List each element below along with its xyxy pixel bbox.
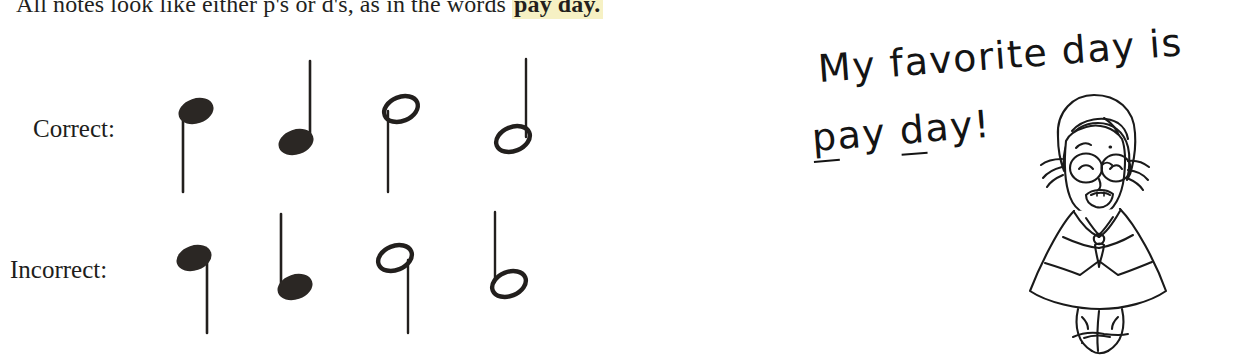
body-text-line: All notes look like either p's or d's, a… — [16, 0, 603, 19]
body-text-plain: All notes look like either p's or d's, a… — [16, 0, 512, 17]
notes-row-incorrect — [170, 200, 590, 350]
filled-note-stem-down-left-icon — [170, 45, 260, 195]
row-label-incorrect: Incorrect: — [10, 257, 107, 283]
notes-row-correct — [170, 45, 590, 195]
hollow-note-stem-up-right-icon — [480, 45, 570, 195]
hollow-note-stem-down-right-icon — [370, 200, 460, 350]
handwritten-line-1: My favorite day is — [816, 20, 1184, 91]
handwritten-d-underlined: d — [898, 107, 927, 156]
handwritten-ay-1: ay — [836, 109, 902, 158]
filled-note-stem-up-right-icon — [265, 45, 355, 195]
filled-note-stem-down-right-icon — [170, 200, 260, 350]
highlighted-phrase: pay day. — [512, 0, 603, 19]
cartoon-woman-illustration — [1000, 85, 1180, 357]
handwritten-ay-2: ay! — [923, 102, 992, 151]
handwritten-p-underlined: p — [810, 114, 839, 163]
row-label-correct: Correct: — [33, 116, 115, 142]
hollow-note-stem-up-left-icon — [475, 200, 565, 350]
handwritten-line-2: pay day! — [810, 102, 992, 160]
shadow-squiggle-icon — [1068, 327, 1138, 343]
filled-note-stem-up-left-icon — [262, 200, 352, 350]
hollow-note-stem-down-left-icon — [375, 45, 465, 195]
